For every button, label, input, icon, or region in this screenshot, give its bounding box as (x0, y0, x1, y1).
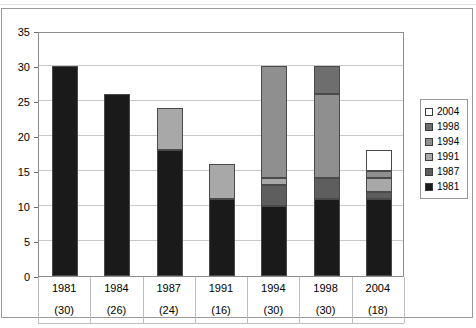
legend-swatch-icon (425, 123, 433, 131)
legend-item-label: 1987 (437, 167, 459, 177)
legend-item-label: 2004 (437, 107, 459, 117)
legend-swatch-icon (425, 183, 433, 191)
x-axis-category-count: (30) (38, 305, 90, 316)
x-axis-category-label: 1998 (300, 283, 352, 294)
legend-item[interactable]: 1991 (425, 149, 464, 164)
y-axis-tick-mark (34, 242, 38, 243)
x-axis-category-label: 1981 (38, 283, 90, 294)
bar-group (261, 31, 287, 276)
bar-group (314, 31, 340, 276)
legend-item[interactable]: 2004 (425, 104, 464, 119)
plot-area (38, 32, 404, 277)
legend-swatch-icon (425, 153, 433, 161)
x-axis-category-label: 1994 (247, 283, 299, 294)
x-axis-separator (404, 277, 405, 323)
legend-swatch-icon (425, 168, 433, 176)
legend-swatch-icon (425, 138, 433, 146)
legend-item-label: 1998 (437, 122, 459, 132)
x-axis-category-count: (24) (143, 305, 195, 316)
y-axis-tick-label: 30 (2, 62, 30, 73)
bar-segment (261, 66, 287, 178)
bar-segment (157, 108, 183, 150)
x-axis-category-label: 1991 (195, 283, 247, 294)
legend-item[interactable]: 1981 (425, 179, 464, 194)
bar-segment (314, 178, 340, 199)
bars-layer (39, 33, 403, 276)
chart-legend: 200419981994199119871981 (420, 99, 468, 199)
legend-item-label: 1994 (437, 137, 459, 147)
legend-item[interactable]: 1994 (425, 134, 464, 149)
bar-segment (209, 164, 235, 199)
x-axis-category-count: (18) (352, 305, 404, 316)
y-axis-tick-mark (34, 32, 38, 33)
x-axis-category-label: 2004 (352, 283, 404, 294)
legend-item[interactable]: 1998 (425, 119, 464, 134)
x-axis-category-count: (30) (247, 305, 299, 316)
bar-segment (366, 150, 392, 171)
legend-item-label: 1991 (437, 152, 459, 162)
bar-group (157, 31, 183, 276)
bar-segment (314, 199, 340, 276)
bar-segment (261, 185, 287, 206)
bar-segment (314, 66, 340, 94)
bar-segment (366, 199, 392, 276)
bar-segment (366, 178, 392, 192)
bar-segment (261, 178, 287, 185)
x-axis-category-label: 1987 (143, 283, 195, 294)
y-axis-tick-label: 0 (2, 272, 30, 283)
x-axis-category-count: (30) (300, 305, 352, 316)
bar-group (366, 31, 392, 276)
bar-group (52, 31, 78, 276)
y-axis-tick-label: 10 (2, 202, 30, 213)
bar-group (104, 31, 130, 276)
y-axis-tick-mark (34, 137, 38, 138)
chart-figure-frame: 05101520253035 1981(30)1984(26)1987(24)1… (1, 8, 473, 318)
bar-segment (314, 94, 340, 178)
x-axis-category-label: 1984 (90, 283, 142, 294)
y-axis-tick-label: 15 (2, 167, 30, 178)
legend-item[interactable]: 1987 (425, 164, 464, 179)
bar-group (209, 31, 235, 276)
bar-segment (52, 66, 78, 276)
bar-segment (261, 206, 287, 276)
y-axis-tick-mark (34, 172, 38, 173)
y-axis-tick-label: 35 (2, 27, 30, 38)
bar-segment (104, 94, 130, 276)
y-axis-tick-mark (34, 102, 38, 103)
bar-segment (209, 199, 235, 276)
bar-segment (157, 150, 183, 276)
bar-segment (366, 192, 392, 199)
x-axis-category-count: (26) (90, 305, 142, 316)
legend-item-label: 1981 (437, 182, 459, 192)
y-axis-tick-label: 5 (2, 237, 30, 248)
top-edge-divider (0, 4, 476, 5)
y-axis-tick-mark (34, 67, 38, 68)
y-axis-tick-label: 20 (2, 132, 30, 143)
y-axis-tick-label: 25 (2, 97, 30, 108)
y-axis-tick-mark (34, 207, 38, 208)
x-axis-category-count: (16) (195, 305, 247, 316)
legend-swatch-icon (425, 108, 433, 116)
x-axis-bottom-rule (38, 323, 404, 324)
bar-segment (366, 171, 392, 178)
stacked-bar-chart: 05101520253035 1981(30)1984(26)1987(24)1… (0, 0, 476, 328)
